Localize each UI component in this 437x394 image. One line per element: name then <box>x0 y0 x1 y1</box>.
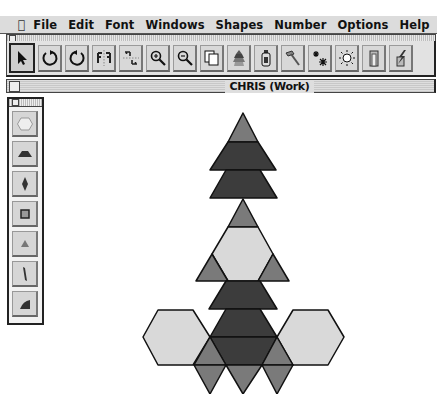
pattern-block-canvas[interactable] <box>0 0 437 394</box>
shape-triangle[interactable] <box>228 113 258 142</box>
shape-triangle[interactable] <box>228 199 258 227</box>
shape-triangle[interactable] <box>262 365 293 394</box>
shape-trapezoid[interactable] <box>210 309 277 337</box>
shape-trapezoid[interactable] <box>209 281 277 309</box>
shape-triangle[interactable] <box>226 365 262 394</box>
shape-trapezoid[interactable] <box>210 170 277 198</box>
shape-triangle[interactable] <box>194 365 226 394</box>
shape-trapezoid[interactable] <box>210 142 276 170</box>
